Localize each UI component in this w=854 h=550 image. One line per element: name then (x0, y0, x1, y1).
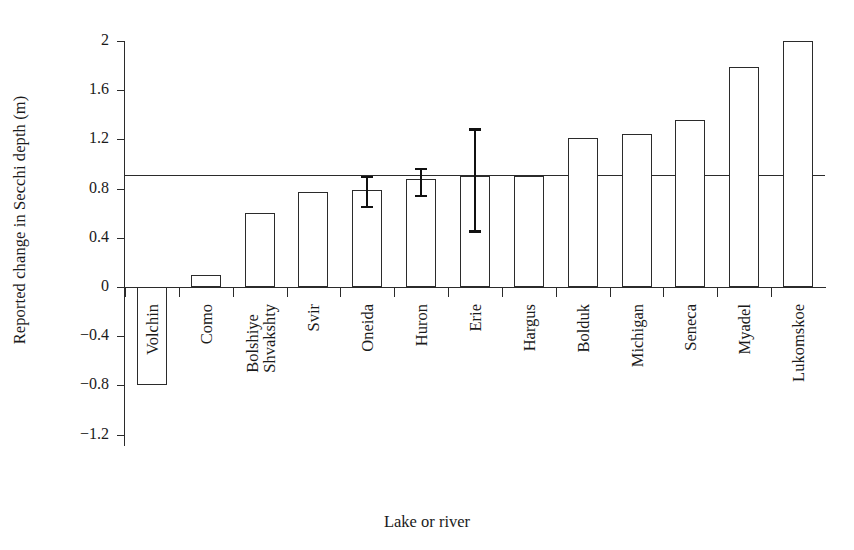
x-category-label-line: Oneida (358, 304, 377, 352)
bar (675, 120, 705, 287)
x-tick (663, 288, 664, 297)
error-bar-cap-lower (415, 195, 427, 197)
x-tick (556, 288, 557, 297)
error-bar-cap-lower (361, 206, 373, 208)
x-category-label-line: Shvakshty (261, 304, 278, 373)
x-category-label: Huron (413, 304, 430, 346)
bar (298, 192, 328, 287)
error-bar-cap-upper (361, 176, 373, 178)
bar (622, 134, 652, 287)
x-category-label: Myadel (736, 304, 753, 354)
y-tick (117, 90, 125, 91)
x-category-label-line: Myadel (735, 304, 754, 354)
error-bar-cap-lower (469, 230, 481, 232)
bar (191, 275, 221, 287)
error-bar-stem (474, 128, 476, 230)
x-tick (394, 288, 395, 297)
x-category-label: Bolduk (575, 304, 592, 353)
y-tick (117, 139, 125, 140)
x-tick (340, 288, 341, 297)
x-category-label: Como (198, 304, 215, 344)
x-category-label: Oneida (359, 304, 376, 352)
x-category-label-line: Lukomskoe (789, 304, 808, 382)
x-category-label-line: Bolshiye (243, 314, 262, 373)
x-category-label-line: Erie (466, 304, 485, 331)
x-tick (125, 288, 126, 297)
x-axis-title: Lake or river (0, 512, 854, 532)
x-tick (233, 288, 234, 297)
y-tick (117, 435, 125, 436)
bar (729, 67, 759, 287)
y-axis-title: Reported change in Secchi depth (m) (0, 0, 40, 440)
bar (783, 41, 813, 287)
bar (568, 138, 598, 287)
y-tick (117, 336, 125, 337)
chart-figure: Reported change in Secchi depth (m) 21.6… (0, 0, 854, 550)
x-tick (717, 288, 718, 297)
x-tick (610, 288, 611, 297)
x-category-label: Volchin (144, 304, 161, 355)
x-category-label: Seneca (682, 304, 699, 351)
x-category-label: Michigan (629, 304, 646, 367)
x-category-label: BolshiyeShvakshty (244, 304, 279, 373)
x-tick (502, 288, 503, 297)
y-tick (117, 189, 125, 190)
x-category-label-line: Bolduk (574, 304, 593, 353)
x-axis-line (124, 287, 826, 288)
error-bar-cap-upper (415, 168, 427, 170)
bar (514, 176, 544, 287)
y-tick (117, 385, 125, 386)
x-category-label-line: Volchin (143, 304, 162, 355)
x-tick (448, 288, 449, 297)
x-category-label: Svir (305, 304, 322, 332)
error-bar-stem (420, 168, 422, 195)
x-tick (179, 288, 180, 297)
x-category-label-line: Huron (412, 304, 431, 346)
error-bar-cap-upper (469, 128, 481, 130)
y-tick (117, 287, 125, 288)
x-category-label: Lukomskoe (790, 304, 807, 382)
x-category-label-line: Como (197, 304, 216, 344)
x-category-label: Erie (467, 304, 484, 331)
error-bar-stem (366, 176, 368, 206)
x-category-label-line: Seneca (681, 304, 700, 351)
x-tick (287, 288, 288, 297)
x-category-label: Hargus (521, 304, 538, 351)
x-tick (771, 288, 772, 297)
bar (245, 213, 275, 287)
y-tick (117, 41, 125, 42)
x-category-label-line: Michigan (628, 304, 647, 367)
x-category-label-line: Svir (304, 304, 323, 332)
x-category-label-line: Hargus (520, 304, 539, 351)
y-tick (117, 238, 125, 239)
